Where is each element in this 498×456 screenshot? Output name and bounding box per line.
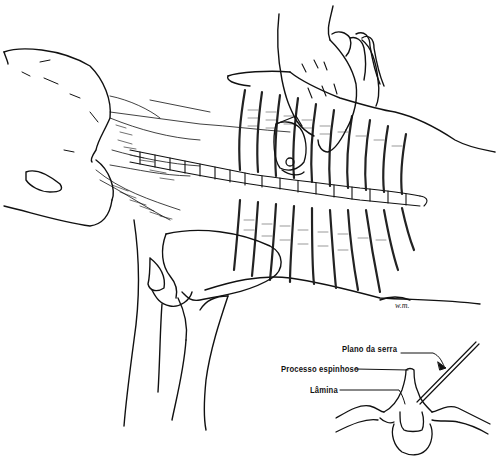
label-spinous-process: Processo espinhoso	[281, 364, 359, 374]
anatomical-illustration	[0, 0, 498, 456]
oscillating-saw	[274, 116, 306, 175]
neck-muscles	[96, 96, 290, 220]
saw-plane-line	[417, 342, 479, 404]
artist-signature: w.m.	[395, 301, 410, 310]
surgeon-hand	[278, 6, 379, 152]
forelimb	[124, 220, 281, 430]
label-lamina: Lâmina	[310, 385, 338, 395]
thorax-outline	[205, 71, 495, 304]
label-leaders	[340, 353, 446, 404]
rib-shading	[244, 110, 402, 250]
vertebra-cross-section	[336, 369, 490, 455]
head	[4, 49, 113, 226]
label-saw-plane: Plano da serra	[342, 344, 397, 354]
